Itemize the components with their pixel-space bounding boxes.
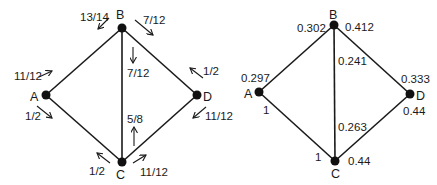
value-bc-upper: 0.241 <box>338 55 367 67</box>
node-label-c: C <box>116 168 125 182</box>
value-a-upper: 0.297 <box>241 72 270 84</box>
edge-a-b-right <box>259 25 334 92</box>
label-b-to-a: 13/14 <box>80 11 109 23</box>
value-b-right: 0.412 <box>345 21 374 33</box>
arrow-c-to-d-icon <box>133 155 146 163</box>
arrow-d-to-b-icon <box>190 68 203 78</box>
edge-b-c-right <box>334 25 335 161</box>
node-d-right <box>406 90 415 99</box>
node-label-c-right: C <box>331 167 340 181</box>
label-b-to-c: 7/12 <box>127 67 149 79</box>
left-graph: A B C D 13/14 7/12 7/12 11/12 1/2 1/2 11… <box>14 8 233 182</box>
node-label-a-right: A <box>244 87 253 101</box>
label-c-to-a: 1/2 <box>89 165 105 177</box>
node-label-a: A <box>30 90 39 104</box>
label-a-to-c: 1/2 <box>25 110 41 122</box>
value-d-lower: 0.44 <box>403 105 426 117</box>
value-a-lower: 1 <box>263 104 269 116</box>
node-d <box>193 91 202 100</box>
edge-a-b <box>46 28 122 95</box>
node-c <box>118 158 127 167</box>
label-d-to-c: 11/12 <box>205 110 233 122</box>
diagram-canvas: A B C D 13/14 7/12 7/12 11/12 1/2 1/2 11… <box>0 0 437 185</box>
value-d-upper: 0.333 <box>401 73 430 85</box>
label-a-to-b: 11/12 <box>14 70 42 82</box>
value-c-left: 1 <box>315 151 321 163</box>
label-d-to-b: 1/2 <box>203 65 219 77</box>
node-b <box>118 24 127 33</box>
edge-a-c <box>46 95 122 162</box>
node-label-d: D <box>203 90 212 104</box>
node-label-b: B <box>116 8 124 22</box>
label-c-to-d: 11/12 <box>140 166 168 178</box>
node-a <box>42 91 51 100</box>
value-bc-lower: 0.263 <box>338 121 367 133</box>
node-c-right <box>331 157 340 166</box>
value-c-right: 0.44 <box>348 155 371 167</box>
right-graph: A B C D 0.302 0.412 0.241 0.297 1 0.333 … <box>241 8 430 181</box>
node-a-right <box>255 88 264 97</box>
edge-a-c-right <box>259 92 335 161</box>
node-label-b-right: B <box>329 8 337 22</box>
label-b-to-d: 7/12 <box>143 14 165 26</box>
value-b-left: 0.302 <box>297 22 326 34</box>
label-c-to-b: 5/8 <box>127 113 143 125</box>
edge-c-d <box>122 95 197 162</box>
arrow-c-to-a-icon <box>97 153 110 163</box>
node-label-d-right: D <box>416 89 425 103</box>
